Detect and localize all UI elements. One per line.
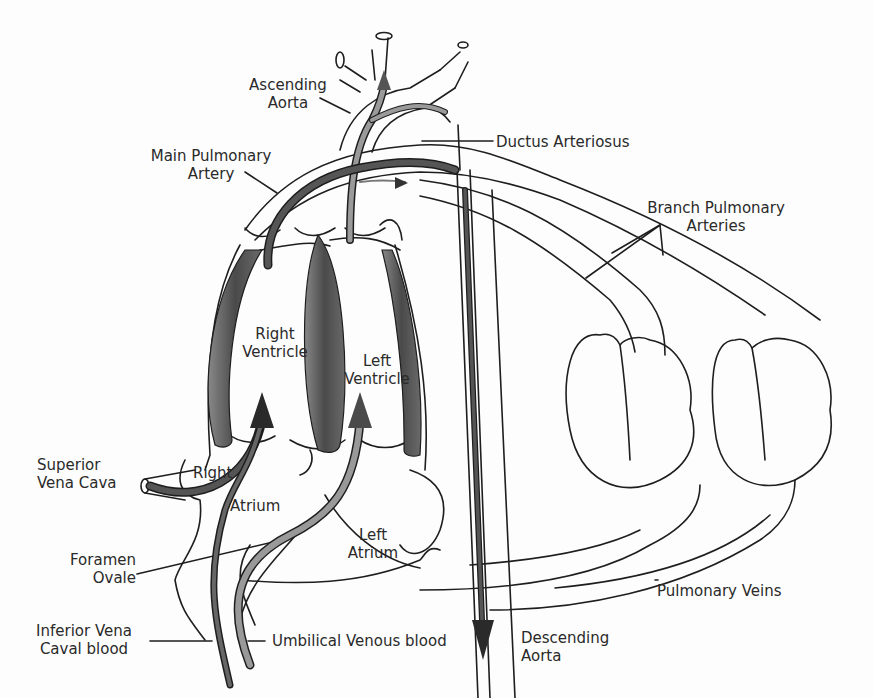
- label-line: Aorta: [246, 94, 330, 112]
- label-ductus-arteriosus: Ductus Arteriosus: [496, 133, 629, 151]
- label-line: Artery: [136, 165, 286, 183]
- label-ascending-aorta: Ascending Aorta: [246, 76, 330, 112]
- label-line: Ventricle: [232, 343, 318, 361]
- label-line: Superior: [37, 456, 117, 474]
- label-line: Caval blood: [22, 640, 146, 658]
- label-line: Main Pulmonary: [136, 147, 286, 165]
- label-line: Descending: [521, 629, 609, 647]
- label-line: Aorta: [521, 647, 609, 665]
- label-superior-vena-cava: Superior Vena Cava: [37, 456, 117, 492]
- label-line: Arteries: [636, 217, 796, 235]
- label-inferior-vena-caval-blood: Inferior Vena Caval blood: [22, 622, 146, 658]
- label-main-pulmonary-artery: Main Pulmonary Artery: [136, 147, 286, 183]
- label-line: Branch Pulmonary: [636, 199, 796, 217]
- label-line: Ascending: [246, 76, 330, 94]
- label-right-ventricle: Right Ventricle: [232, 325, 318, 361]
- label-line: Atrium: [338, 544, 408, 562]
- label-branch-pulmonary-arteries: Branch Pulmonary Arteries: [636, 199, 796, 235]
- label-line: Left: [338, 526, 408, 544]
- label-left-atrium: Left Atrium: [338, 526, 408, 562]
- label-line: Inferior Vena: [22, 622, 146, 640]
- label-line: Vena Cava: [37, 474, 117, 492]
- fetal-circulation-diagram: Ascending Aorta Main Pulmonary Artery Du…: [0, 0, 873, 698]
- label-line: Ovale: [46, 569, 136, 587]
- label-pulmonary-veins: Pulmonary Veins: [657, 582, 782, 600]
- label-right-atrium-1: Right: [193, 464, 233, 482]
- label-descending-aorta: Descending Aorta: [521, 629, 609, 665]
- label-line: Right: [232, 325, 318, 343]
- label-umbilical-venous-blood: Umbilical Venous blood: [272, 632, 447, 650]
- label-right-atrium-2: Atrium: [230, 497, 280, 515]
- label-line: Foramen: [46, 551, 136, 569]
- label-left-ventricle: Left Ventricle: [334, 352, 420, 388]
- label-foramen-ovale: Foramen Ovale: [46, 551, 136, 587]
- label-line: Ventricle: [334, 370, 420, 388]
- label-line: Left: [334, 352, 420, 370]
